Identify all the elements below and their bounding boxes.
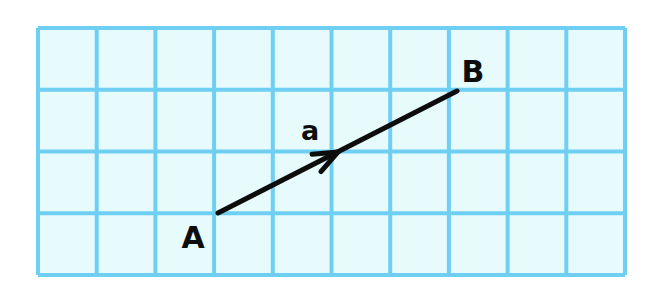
figure-canvas: a A B [0,0,662,289]
vector-label-a: a [301,115,319,146]
vector-diagram: a A B [0,0,662,289]
point-label-b: B [462,54,485,89]
point-label-a: A [181,220,205,255]
